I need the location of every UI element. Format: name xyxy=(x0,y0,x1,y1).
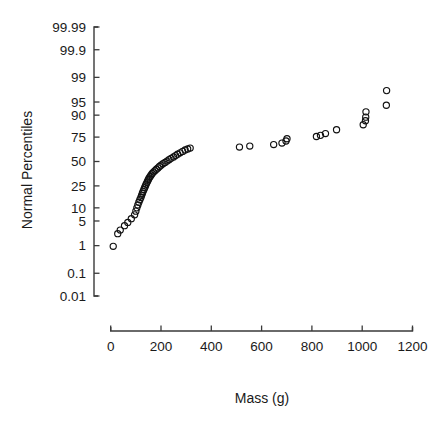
y-tick-label: 0.1 xyxy=(67,266,86,281)
x-tick-label: 600 xyxy=(250,339,273,354)
data-point xyxy=(247,143,253,149)
y-tick-label: 99 xyxy=(71,70,86,85)
data-point xyxy=(284,136,290,142)
y-tick-label: 25 xyxy=(71,179,86,194)
y-tick-label: 99.99 xyxy=(52,20,86,35)
y-tick-label: 99.9 xyxy=(60,43,86,58)
data-point xyxy=(110,243,116,249)
x-tick-label: 1000 xyxy=(347,339,377,354)
y-tick-label: 90 xyxy=(71,108,86,123)
y-tick-label: 5 xyxy=(78,214,86,229)
data-point xyxy=(384,88,390,94)
x-tick-label: 0 xyxy=(107,339,115,354)
percentile-axis: 99.9999.999959075502510510.10.01 xyxy=(52,20,99,304)
x-tick-label: 800 xyxy=(301,339,324,354)
data-point xyxy=(383,102,389,108)
data-point xyxy=(236,144,242,150)
y-tick-label: 75 xyxy=(71,130,86,145)
x-tick-label: 1200 xyxy=(397,339,427,354)
y-tick-label: 50 xyxy=(71,154,86,169)
data-point xyxy=(333,127,339,133)
normal-probability-plot: 99.9999.999959075502510510.10.01 0200400… xyxy=(0,0,447,427)
y-axis-title: Normal Percentiles xyxy=(19,111,35,229)
chart-canvas: 99.9999.999959075502510510.10.01 0200400… xyxy=(0,0,447,427)
mass-axis: 020040060080010001200 xyxy=(107,326,428,355)
data-point xyxy=(271,141,277,147)
y-tick-label: 1 xyxy=(78,238,86,253)
x-tick-label: 200 xyxy=(150,339,173,354)
data-point xyxy=(313,133,319,139)
y-tick-label: 0.01 xyxy=(60,289,86,304)
x-axis-title: Mass (g) xyxy=(235,390,289,406)
x-tick-label: 400 xyxy=(200,339,223,354)
data-points-group xyxy=(110,88,390,250)
